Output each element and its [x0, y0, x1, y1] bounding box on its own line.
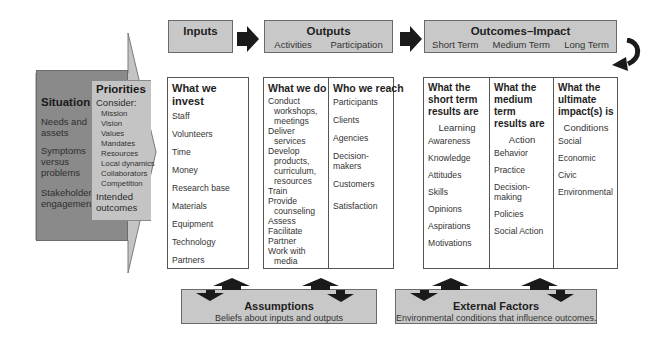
- bidirectional-arrows-icon: [0, 0, 664, 340]
